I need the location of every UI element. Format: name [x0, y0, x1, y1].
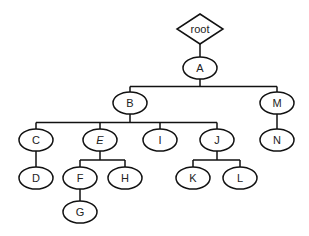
node-F: F: [63, 167, 97, 189]
node-label: M: [272, 97, 281, 109]
tree-diagram: rootABMCEIJNDFHKLG: [0, 0, 309, 236]
node-label: C: [32, 134, 40, 146]
node-label: N: [273, 134, 281, 146]
node-label: L: [237, 172, 243, 184]
node-label: J: [214, 134, 220, 146]
node-J: J: [200, 129, 234, 151]
node-H: H: [108, 167, 142, 189]
node-label: root: [191, 23, 210, 35]
node-label: B: [126, 97, 133, 109]
node-B: B: [113, 92, 147, 114]
node-E: E: [83, 129, 117, 151]
node-N: N: [260, 129, 294, 151]
tree-nodes: rootABMCEIJNDFHKLG: [19, 14, 294, 223]
node-M: M: [260, 92, 294, 114]
node-G: G: [63, 201, 97, 223]
node-K: K: [176, 167, 210, 189]
node-D: D: [19, 167, 53, 189]
node-label: G: [76, 206, 85, 218]
node-label: K: [189, 172, 197, 184]
node-C: C: [19, 129, 53, 151]
node-label: I: [158, 134, 161, 146]
node-root: root: [177, 14, 223, 44]
node-label: D: [32, 172, 40, 184]
node-label: A: [196, 62, 204, 74]
node-A: A: [183, 57, 217, 79]
node-L: L: [223, 167, 257, 189]
node-label: F: [77, 172, 84, 184]
node-label: E: [96, 134, 104, 146]
node-label: H: [121, 172, 129, 184]
node-I: I: [143, 129, 177, 151]
